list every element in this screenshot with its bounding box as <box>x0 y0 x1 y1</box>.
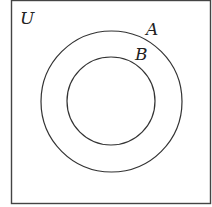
set-b-circle <box>67 57 155 145</box>
set-b-label: B <box>134 44 148 64</box>
set-a-label: A <box>144 19 158 39</box>
universe-label: U <box>20 8 35 28</box>
set-a-circle <box>41 31 182 172</box>
venn-diagram: U A B <box>0 0 212 207</box>
